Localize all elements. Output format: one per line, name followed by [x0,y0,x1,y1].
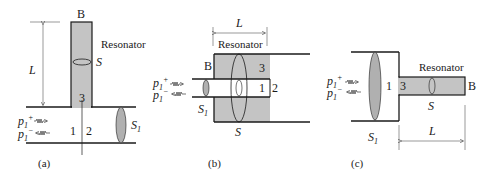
duct-area-label: S1 [368,130,378,146]
junction-1-label: 1 [259,81,265,95]
incident-wave-arrow-icon [170,82,183,86]
closed-end-label: B [77,7,85,21]
resonator-area-label: S [235,125,241,139]
junction-3-label: 3 [259,61,265,75]
resonator-label: Resonator [218,38,263,50]
resonator-label: Resonator [101,38,146,50]
reflected-wave-arrow-icon [172,92,186,96]
panel-caption: (b) [208,157,221,170]
resonator-area-label: S [96,55,102,69]
resonator-label: Resonator [419,61,464,73]
resonator-tube [399,77,465,95]
duct-cross-section [116,107,126,143]
panel-caption: (a) [38,157,51,170]
length-label: L [235,16,243,30]
panel-caption: (c) [351,157,364,170]
duct-cross-section [369,52,381,120]
junction-2-label: 2 [86,124,92,138]
junction-3-label: 3 [79,91,85,105]
panel-a: L B Resonator S 3 1 2 S1 p1+ p1− (a) [17,7,146,170]
incident-wave-arrow-icon [34,119,47,123]
duct-area-label: S1 [198,102,208,118]
closed-end-label: B [204,59,212,73]
reflected-wave-arrow-icon [36,131,50,135]
length-label: L [428,124,436,138]
junction-1-label: 1 [70,124,76,138]
inner-cross-section [236,80,242,96]
resonator-diagram: L B Resonator S 3 1 2 S1 p1+ p1− (a) [0,0,492,178]
length-label: L [28,63,36,77]
junction-2-label: 2 [272,81,278,95]
duct-area-label: S1 [131,118,141,134]
reflected-wave-arrow-icon [347,90,361,94]
junction-3-label: 3 [400,79,406,93]
panel-c: 1 3 Resonator B S S1 L p1+ p1− (c) [326,52,476,170]
closed-end-label: B [468,79,476,93]
junction-1-label: 1 [386,79,392,93]
incident-wave-arrow-icon [345,80,358,84]
panel-b: L Resonator B 3 1 2 S1 S p1+ p1− (b) [152,16,310,170]
branch-opening [72,106,91,108]
resonator-area-label: S [428,99,434,113]
duct-cross-section [203,80,209,96]
